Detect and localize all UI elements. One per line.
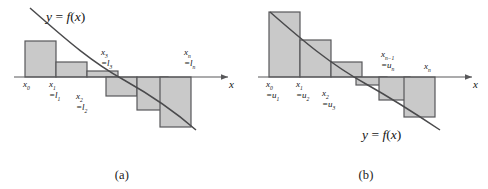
panel-b-plot (244, 0, 488, 189)
axis-label-x-b: x (473, 79, 478, 90)
tick-label-xn-1-b: xn−1 =un (381, 50, 394, 73)
caption-a: (a) (0, 168, 244, 183)
tick-label-x2-b: x2 =u3 (322, 89, 335, 112)
tick-label-x1-a: x1 =l1 (49, 80, 60, 103)
panel-b: x0 =u1 x1 =u2 x2 =u3 xn−1 =un xn y = f(x… (244, 0, 488, 189)
panel-a-plot (0, 0, 244, 189)
tick-label-xn-b: xn (424, 62, 431, 73)
tick-label-xn-a: xn =ln (184, 48, 195, 71)
curve-label-b: y = f(x) (362, 128, 401, 142)
axis-label-x-a: x (229, 79, 234, 90)
panel-a: y = f(x) x0 x1 =l1 x2 =l2 x3 =l3 xn =ln … (0, 0, 244, 189)
bar-2 (56, 62, 87, 77)
bar-6 (160, 77, 191, 127)
tick-label-x3-a: x3 =l3 (101, 48, 112, 71)
bar-1 (269, 12, 300, 77)
bar-1 (25, 41, 56, 77)
figure-riemann-sums: y = f(x) x0 x1 =l1 x2 =l2 x3 =l3 xn =ln … (0, 0, 488, 189)
tick-label-x1-b: x1 =u2 (296, 80, 309, 103)
bar-4 (106, 77, 137, 96)
caption-b: (b) (244, 168, 488, 183)
tick-label-x0-a: x0 (23, 80, 30, 91)
tick-label-x0-b: x0 =u1 (266, 80, 279, 103)
tick-label-x2-a: x2 =l2 (76, 92, 87, 115)
bar-6 (404, 77, 435, 117)
bars-upper-sums (269, 12, 435, 117)
curve-label-a: y = f(x) (46, 10, 85, 24)
